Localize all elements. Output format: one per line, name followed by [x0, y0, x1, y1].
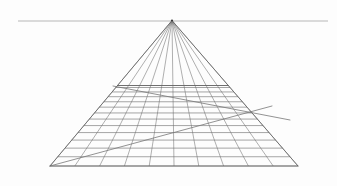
- vanishing-point-marker: [171, 19, 173, 21]
- perspective-grid-svg: [0, 0, 337, 186]
- perspective-drawing-canvas: One-Point Perspective Grid Construction: [0, 0, 337, 186]
